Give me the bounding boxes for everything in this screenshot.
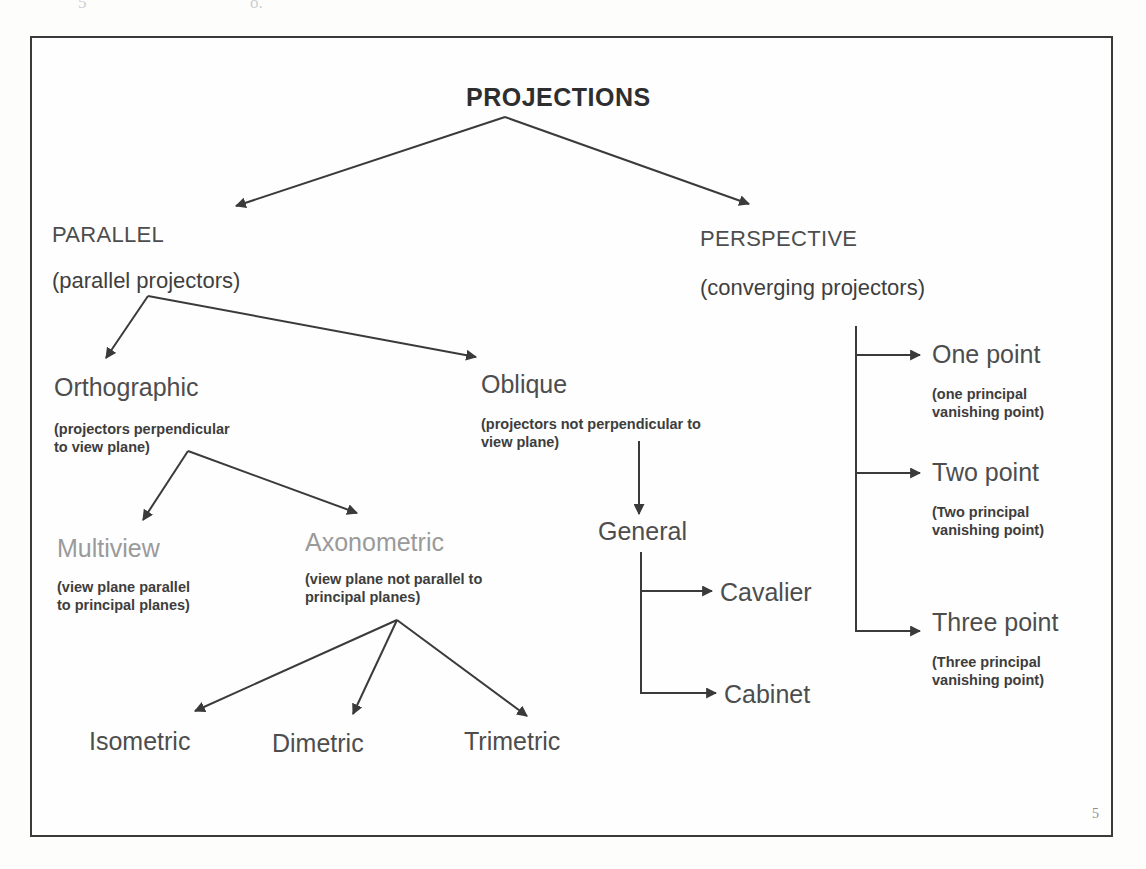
- node-axonometric-label: Axonometric: [305, 528, 444, 557]
- node-multiview-note: (view plane parallel to principal planes…: [57, 578, 190, 614]
- node-two-point-note: (Two principal vanishing point): [932, 503, 1044, 539]
- node-perspective-label: PERSPECTIVE: [700, 226, 857, 252]
- scan-artifact-mid: o.: [250, 0, 263, 12]
- node-parallel-label: PARALLEL: [52, 222, 164, 248]
- scan-artifact-left: 5: [78, 0, 87, 12]
- node-dimetric-label: Dimetric: [272, 729, 364, 758]
- diagram-title: PROJECTIONS: [466, 83, 651, 112]
- node-three-point-note: (Three principal vanishing point): [932, 653, 1044, 689]
- node-oblique-label: Oblique: [481, 370, 567, 399]
- node-one-point-label: One point: [932, 340, 1040, 369]
- node-orthographic-label: Orthographic: [54, 373, 199, 402]
- node-cavalier-label: Cavalier: [720, 578, 812, 607]
- node-trimetric-label: Trimetric: [464, 727, 560, 756]
- node-parallel-sublabel: (parallel projectors): [52, 268, 240, 294]
- node-cabinet-label: Cabinet: [724, 680, 810, 709]
- scan-artifact-strip: 5 o.: [0, 0, 1146, 26]
- node-general-label: General: [598, 517, 687, 546]
- node-isometric-label: Isometric: [89, 727, 190, 756]
- node-multiview-label: Multiview: [57, 534, 160, 563]
- node-axonometric-note: (view plane not parallel to principal pl…: [305, 570, 482, 606]
- node-perspective-sublabel: (converging projectors): [700, 275, 925, 301]
- page-number: 5: [1092, 806, 1099, 822]
- node-three-point-label: Three point: [932, 608, 1058, 637]
- node-oblique-note: (projectors not perpendicular to view pl…: [481, 415, 701, 451]
- node-one-point-note: (one principal vanishing point): [932, 385, 1044, 421]
- node-orthographic-note: (projectors perpendicular to view plane): [54, 420, 230, 456]
- slide-page: 5 o.: [0, 0, 1146, 869]
- node-two-point-label: Two point: [932, 458, 1039, 487]
